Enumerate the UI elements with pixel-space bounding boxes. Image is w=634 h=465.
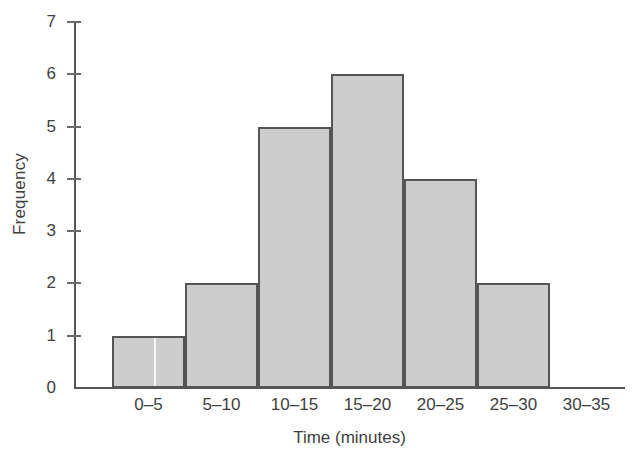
histogram-bar xyxy=(185,283,258,388)
x-axis-tick-label: 30–35 xyxy=(550,396,623,413)
histogram-bar xyxy=(112,336,185,388)
histogram-bar xyxy=(404,179,477,388)
x-axis-tick-label: 10–15 xyxy=(258,396,331,413)
histogram-figure: Frequency 01234567 0–55–1010–1515–2020–2… xyxy=(0,0,634,465)
histogram-bar xyxy=(331,74,404,388)
x-axis-tick-label: 5–10 xyxy=(185,396,258,413)
histogram-bar xyxy=(477,283,550,388)
x-axis-tick-label: 20–25 xyxy=(404,396,477,413)
x-axis-tick-label: 15–20 xyxy=(331,396,404,413)
x-axis-tick-label: 0–5 xyxy=(112,396,185,413)
histogram-bar xyxy=(258,127,331,388)
x-axis-title: Time (minutes) xyxy=(74,428,625,448)
scan-artifact xyxy=(154,338,156,386)
x-axis-tick-label: 25–30 xyxy=(477,396,550,413)
